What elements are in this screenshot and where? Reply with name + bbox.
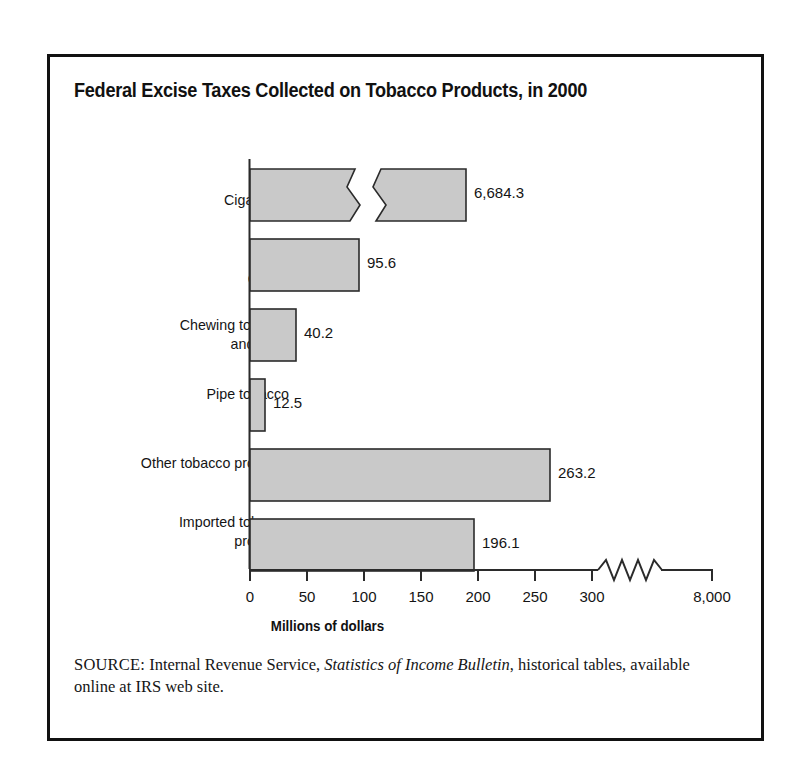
x-tick-label-50: 50 [287,588,327,605]
x-tick-label-250: 250 [515,588,555,605]
bar-cigarettes [250,169,466,221]
bar-other-tobacco-products [250,449,550,501]
x-tick-label-8000: 8,000 [682,588,742,605]
bar-value-cigarettes: 6,684.3 [474,184,524,201]
figure-frame: Federal Excise Taxes Collected on Tobacc… [47,54,764,741]
bar-cigarettes-right-segment [373,169,466,221]
chart-svg [50,57,761,617]
bar-pipe-tobacco [250,379,265,431]
source-publication-title: Statistics of Income Bulletin [324,655,510,674]
x-tick-label-150: 150 [401,588,441,605]
bar-value-pipe-tobacco: 12.5 [273,394,302,411]
source-note: SOURCE: Internal Revenue Service, Statis… [74,654,734,697]
bar-value-chewing-tobacco-and-snuff: 40.2 [304,324,333,341]
x-tick-label-200: 200 [458,588,498,605]
bar-value-imported-tobacco-products: 196.1 [482,534,520,551]
x-axis-scale-break-zigzag [598,560,662,580]
x-tick-label-300: 300 [572,588,612,605]
bar-value-other-tobacco-products: 263.2 [558,464,596,481]
chart-plot-area: Cigarettes Cigars Chewing tobacco and sn… [50,57,761,738]
bar-cigars [250,239,359,291]
bar-imported-tobacco-products [250,519,474,571]
source-text-part1: Internal Revenue Service, [145,655,324,674]
bar-cigarettes-left-segment [250,169,360,221]
bar-value-cigars: 95.6 [367,254,396,271]
x-axis-title: Millions of dollars [0,618,654,634]
x-tick-label-0: 0 [230,588,270,605]
bar-chewing-tobacco-and-snuff [250,309,296,361]
source-label: SOURCE: [74,655,145,674]
x-tick-label-100: 100 [344,588,384,605]
